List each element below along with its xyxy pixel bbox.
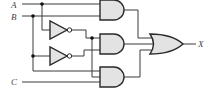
- or-gate: [150, 34, 183, 54]
- wire-b-to-and3: [33, 56, 100, 71]
- and-gate-3: [100, 67, 124, 87]
- and-gate-1: [100, 0, 124, 20]
- wire-a-to-not1: [42, 4, 50, 30]
- and-gate-2: [100, 34, 124, 54]
- junction-b: [31, 14, 35, 18]
- junction-a: [40, 2, 44, 6]
- junction-nota: [90, 36, 94, 40]
- wire-and1-to-or: [124, 10, 153, 38]
- input-label-c: C: [11, 77, 18, 87]
- not-gate-2: [50, 47, 67, 65]
- not-gate-2-bubble: [67, 54, 71, 58]
- wire-nota-to-and2: [72, 30, 100, 38]
- not-gate-1: [50, 21, 67, 39]
- not-gate-1-bubble: [67, 28, 71, 32]
- junction-b2: [31, 54, 35, 58]
- input-label-a: A: [10, 0, 17, 10]
- input-label-b: B: [11, 12, 17, 22]
- output-label-x: X: [197, 39, 204, 49]
- logic-circuit-diagram: A B C X: [0, 0, 205, 98]
- wire-and3-to-or: [124, 50, 153, 77]
- wire-notb-to-and2: [72, 50, 100, 56]
